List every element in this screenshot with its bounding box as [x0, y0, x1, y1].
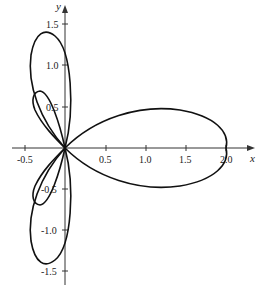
x-tick-label: 1.5 — [179, 154, 192, 165]
x-axis-label: x — [249, 152, 255, 164]
y-tick-label: 1.5 — [46, 19, 59, 30]
x-axis-arrow-icon — [247, 145, 255, 151]
x-tick-label: 1.0 — [139, 154, 152, 165]
y-tick-label: 1.0 — [46, 60, 59, 71]
y-tick-label: -1.5 — [41, 266, 57, 277]
polar-plot: -0.5 0.5 1.0 1.5 2.0 1.5 1.0 0.5 -0.5 -1… — [0, 0, 268, 303]
y-tick-label: -1.0 — [41, 225, 57, 236]
y-axis-arrow-icon — [62, 5, 68, 13]
x-tick-label: 0.5 — [99, 154, 112, 165]
x-tick-label: -0.5 — [17, 154, 33, 165]
y-axis-label: y — [55, 0, 61, 12]
